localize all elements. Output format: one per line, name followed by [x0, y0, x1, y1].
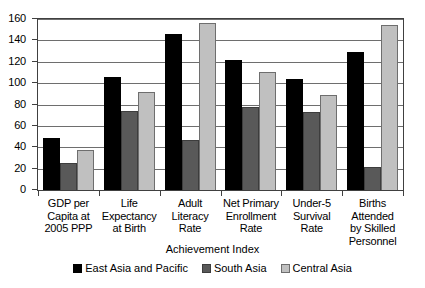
bar: [259, 72, 276, 190]
bar: [43, 138, 60, 190]
bar-group: [221, 19, 282, 190]
bar: [381, 25, 398, 190]
legend-label: East Asia and Pacific: [85, 262, 188, 274]
x-axis-category-label: AdultLiteracyRate: [160, 197, 221, 235]
x-axis-category-line: Net Primary: [221, 197, 282, 210]
y-tick-label: 0: [20, 184, 26, 195]
bar: [104, 77, 121, 190]
x-axis-category-line: Adult: [160, 197, 221, 210]
bar-group: [160, 19, 221, 190]
y-tick-label: 80: [14, 98, 26, 109]
x-tick-mark: [342, 191, 343, 196]
x-axis-category-line: Under-5: [281, 197, 342, 210]
bar: [320, 95, 337, 190]
bar-group: [342, 19, 403, 190]
bar-chart: 160140120100806040200 GDP perCapita at20…: [0, 0, 425, 288]
x-tick-mark: [221, 191, 222, 196]
bar-group: [38, 19, 99, 190]
legend-item[interactable]: East Asia and Pacific: [73, 262, 188, 274]
legend-swatch-icon: [73, 264, 82, 273]
bar: [165, 34, 182, 190]
bar-group: [99, 19, 160, 190]
x-axis-category-label: LifeExpectancyat Birth: [99, 197, 160, 235]
x-tick-mark: [403, 191, 404, 196]
x-axis-category-line: GDP per: [38, 197, 99, 210]
bar-group: [281, 19, 342, 190]
x-axis-category-label: Net PrimaryEnrollmentRate: [221, 197, 282, 235]
y-tick-label: 120: [8, 55, 26, 66]
y-tick-label: 160: [8, 13, 26, 24]
y-tick-label: 60: [14, 119, 26, 130]
bar: [60, 163, 77, 190]
bar: [286, 79, 303, 190]
y-tick-label: 40: [14, 141, 26, 152]
bar: [121, 111, 138, 190]
x-tick-mark: [281, 191, 282, 196]
legend-swatch-icon: [281, 264, 290, 273]
x-axis-category-line: Rate: [281, 222, 342, 235]
bar: [303, 112, 320, 190]
x-axis-category-line: by Skilled: [342, 222, 403, 235]
x-axis-category-line: 2005 PPP: [38, 222, 99, 235]
x-axis-category-line: Life: [99, 197, 160, 210]
bar: [182, 140, 199, 190]
x-axis-category-line: Births Attended: [342, 197, 403, 222]
x-axis-category-line: Capita at: [38, 210, 99, 223]
legend-swatch-icon: [202, 264, 211, 273]
x-axis-category-label: Under-5SurvivalRate: [281, 197, 342, 235]
x-tick-mark: [38, 191, 39, 196]
y-tick-label: 100: [8, 77, 26, 88]
x-axis-category-label: Births Attendedby SkilledPersonnel: [342, 197, 403, 247]
y-tick-label: 20: [14, 162, 26, 173]
chart-legend: East Asia and PacificSouth AsiaCentral A…: [0, 262, 425, 274]
x-axis-category-line: Expectancy: [99, 210, 160, 223]
legend-label: South Asia: [214, 262, 267, 274]
x-axis-category-label: GDP perCapita at2005 PPP: [38, 197, 99, 235]
legend-label: Central Asia: [293, 262, 352, 274]
bar: [199, 23, 216, 190]
bar: [225, 60, 242, 190]
x-axis-category-line: Rate: [160, 222, 221, 235]
x-axis-category-line: Enrollment: [221, 210, 282, 223]
x-axis-category-line: Literacy: [160, 210, 221, 223]
x-axis-labels: GDP perCapita at2005 PPPLifeExpectancyat…: [38, 197, 403, 241]
x-axis-category-line: at Birth: [99, 222, 160, 235]
x-axis-category-line: Rate: [221, 222, 282, 235]
x-axis-title: Achievement Index: [0, 243, 425, 255]
y-tick-label: 140: [8, 34, 26, 45]
bar: [138, 92, 155, 190]
x-tick-mark: [160, 191, 161, 196]
legend-item[interactable]: Central Asia: [281, 262, 352, 274]
bar: [242, 107, 259, 190]
x-axis-category-line: Survival: [281, 210, 342, 223]
bar: [77, 150, 94, 190]
bars-layer: [38, 19, 403, 190]
bar: [364, 167, 381, 191]
x-tick-mark: [99, 191, 100, 196]
y-axis: 160140120100806040200: [0, 18, 33, 191]
bar: [347, 52, 364, 190]
legend-item[interactable]: South Asia: [202, 262, 267, 274]
